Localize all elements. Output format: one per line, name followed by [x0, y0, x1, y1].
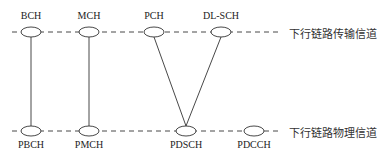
node-bch — [21, 27, 41, 37]
label-dl-sch: DL-SCH — [203, 10, 239, 21]
node-pdsch — [176, 126, 196, 136]
label-pdsch: PDSCH — [170, 139, 202, 150]
transport-channel-caption: 下行链路传输信道 — [289, 25, 377, 41]
label-pbch: PBCH — [18, 139, 44, 150]
node-pdcch — [244, 126, 264, 136]
label-bch: BCH — [21, 10, 42, 21]
node-pmch — [79, 126, 99, 136]
label-pmch: PMCH — [75, 139, 103, 150]
node-pbch — [21, 126, 41, 136]
mapping-dlsch-pdsch — [186, 37, 221, 126]
physical-channel-caption: 下行链路物理信道 — [289, 124, 377, 140]
node-mch — [79, 27, 99, 37]
node-pch — [144, 27, 164, 37]
label-pch: PCH — [144, 10, 163, 21]
mapping-pch-pdsch — [154, 37, 186, 126]
label-mch: MCH — [78, 10, 101, 21]
node-dl-sch — [211, 27, 231, 37]
label-pdcch: PDCCH — [237, 139, 270, 150]
